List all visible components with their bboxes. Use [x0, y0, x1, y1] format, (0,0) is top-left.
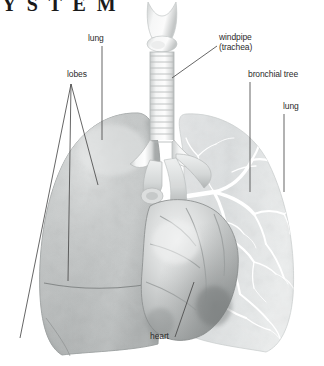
label-lung-right: lung: [283, 102, 299, 112]
larynx: [147, 2, 177, 38]
leader-windpipe: [172, 46, 217, 78]
label-windpipe-line2: (trachea): [219, 43, 252, 53]
diagram-canvas: Y S T E M: [0, 0, 324, 366]
label-windpipe: windpipe (trachea): [219, 33, 252, 52]
page-title: Y S T E M: [2, 0, 119, 16]
label-lung-left: lung: [88, 34, 104, 44]
label-bronchial-tree: bronchial tree: [248, 70, 298, 80]
label-lobes: lobes: [67, 70, 87, 80]
respiratory-system-illustration: [0, 0, 324, 366]
heart-structure: [141, 200, 238, 341]
label-heart: heart: [150, 332, 169, 342]
